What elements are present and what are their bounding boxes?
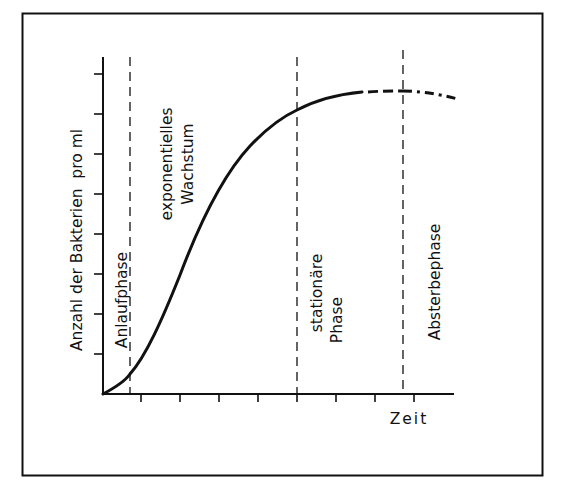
- phase-label-stat-line2: Phase: [328, 297, 346, 343]
- growth-curve-dashed-continuation: [368, 91, 403, 92]
- growth-curve: [103, 92, 362, 394]
- figure-frame: [23, 14, 543, 476]
- axes: [103, 57, 454, 394]
- phase-label-death: Absterbephase: [426, 224, 444, 341]
- bacterial-growth-diagram: Anzahl der Bakterien pro ml Zeit Anlaufp…: [0, 0, 563, 487]
- x-ticks: [141, 394, 414, 402]
- phase-boundaries: [130, 50, 403, 394]
- phase-label-lag: Anlaufphase: [113, 252, 131, 348]
- phase-label-stat-line1: stationäre: [308, 254, 326, 332]
- phase-label-exp-line1: exponentielles: [158, 107, 176, 220]
- phase-label-exp-line2: Wachstum: [179, 123, 197, 204]
- y-ticks: [94, 74, 103, 354]
- x-axis-label: Zeit: [390, 410, 429, 428]
- death-phase-curve: [403, 91, 458, 99]
- y-axis-label: Anzahl der Bakterien pro ml: [68, 129, 86, 351]
